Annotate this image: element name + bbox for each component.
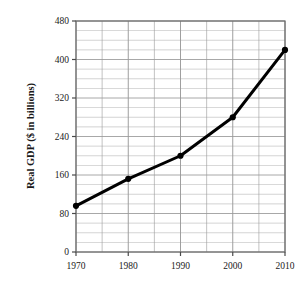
- data-point-marker: [230, 114, 236, 120]
- y-axis-title: Real GDP ($ in billions): [25, 82, 37, 189]
- y-tick-label: 400: [55, 55, 70, 65]
- y-tick-label: 240: [55, 132, 70, 142]
- chart-canvas: 480400320240160800 19701980199020002010 …: [0, 0, 303, 283]
- data-point-marker: [177, 153, 183, 159]
- y-tick-label: 160: [55, 170, 70, 180]
- y-tick-label: 80: [60, 209, 70, 219]
- x-tick-label: 1980: [119, 261, 138, 271]
- y-tick-label: 320: [55, 93, 70, 103]
- x-tick-label: 1990: [171, 261, 190, 271]
- x-tick-label: 1970: [67, 261, 86, 271]
- data-point-marker: [125, 176, 131, 182]
- data-point-marker: [73, 203, 79, 209]
- gdp-line-chart: 480400320240160800 19701980199020002010 …: [0, 0, 303, 283]
- data-point-marker: [282, 47, 288, 53]
- y-tick-label: 480: [55, 16, 70, 26]
- x-tick-label: 2010: [276, 261, 295, 271]
- y-tick-label: 0: [64, 247, 69, 257]
- x-tick-label: 2000: [223, 261, 242, 271]
